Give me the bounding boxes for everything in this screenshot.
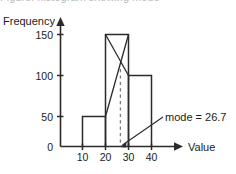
x-tick-label-10: 10 <box>77 151 89 163</box>
histogram-bar-10-20 <box>83 117 106 147</box>
histogram-bar-20-30 <box>106 35 129 147</box>
histogram-bars <box>83 35 152 147</box>
y-tick-label-100: 100 <box>35 70 53 82</box>
mode-construction-lines <box>106 35 129 117</box>
y-tick-label-0: 0 <box>47 141 53 153</box>
y-tick-labels: 150 100 50 0 <box>35 29 53 153</box>
x-tick-label-40: 40 <box>146 151 158 163</box>
y-axis-title: Frequency <box>3 15 55 27</box>
x-tick-labels: 10 20 30 40 <box>77 151 158 163</box>
x-axis-title: Value <box>188 141 215 153</box>
y-tick-label-150: 150 <box>35 29 53 41</box>
chart-canvas: 150 100 50 0 10 20 30 40 Frequency Value… <box>0 0 236 174</box>
y-axis-arrowhead <box>56 17 64 26</box>
mode-construction-line-left <box>106 35 129 76</box>
mode-annotation-leader <box>120 117 164 148</box>
histogram-bar-30-40 <box>129 76 152 147</box>
x-axis-arrowhead <box>174 142 183 150</box>
mode-leader-arrowhead <box>120 143 127 148</box>
x-tick-label-20: 20 <box>100 151 112 163</box>
mode-annotation-label: mode = 26.7 <box>165 111 226 123</box>
y-tick-label-50: 50 <box>41 111 53 123</box>
axis-group <box>56 17 183 151</box>
histogram-mode-figure: Figure: histogram showing mode <box>0 0 236 174</box>
x-tick-label-30: 30 <box>123 151 135 163</box>
mode-construction-line-right <box>106 35 129 117</box>
